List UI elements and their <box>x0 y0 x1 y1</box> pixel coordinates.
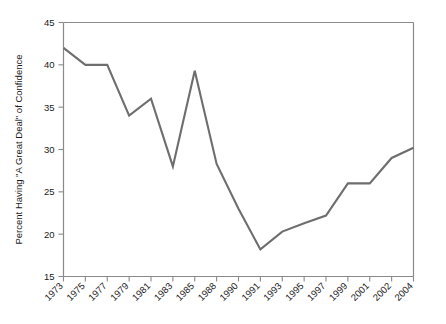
x-axis-tick-label-1999: 1999 <box>327 280 350 303</box>
y-axis-tick-label-45: 45 <box>44 17 55 28</box>
chart-container: 1520253035404519731975197719791981198319… <box>0 0 446 324</box>
x-axis-tick-label-1979: 1979 <box>108 280 131 303</box>
x-axis-tick-label-2001: 2001 <box>348 280 371 303</box>
x-axis-tick-label-1975: 1975 <box>64 280 87 303</box>
line-chart: 1520253035404519731975197719791981198319… <box>0 0 446 324</box>
x-axis-tick-label-1995: 1995 <box>283 280 306 303</box>
x-axis-tick-label-1973: 1973 <box>42 280 65 303</box>
x-axis-tick-label-1985: 1985 <box>173 280 196 303</box>
y-axis-tick-label-25: 25 <box>44 186 55 197</box>
y-axis-tick-label-30: 30 <box>44 144 55 155</box>
x-axis-tick-label-2004: 2004 <box>392 280 415 303</box>
x-axis-tick-label-1988: 1988 <box>195 280 218 303</box>
y-axis-title: Percent Having "A Great Deal" of Confide… <box>13 55 24 245</box>
x-axis-tick-label-1990: 1990 <box>217 280 240 303</box>
x-axis-tick-label-2002: 2002 <box>370 280 393 303</box>
data-series-line <box>64 48 414 250</box>
x-axis-tick-label-1983: 1983 <box>152 280 175 303</box>
x-axis-tick-label-1977: 1977 <box>86 280 109 303</box>
x-axis-tick-label-1991: 1991 <box>239 280 262 303</box>
x-axis-tick-label-1981: 1981 <box>130 280 153 303</box>
y-axis-tick-label-40: 40 <box>44 59 55 70</box>
x-axis-tick-label-1997: 1997 <box>305 280 328 303</box>
y-axis-tick-label-35: 35 <box>44 102 55 113</box>
y-axis-tick-label-15: 15 <box>44 271 55 282</box>
x-axis-tick-label-1993: 1993 <box>261 280 284 303</box>
y-axis-tick-label-20: 20 <box>44 229 55 240</box>
